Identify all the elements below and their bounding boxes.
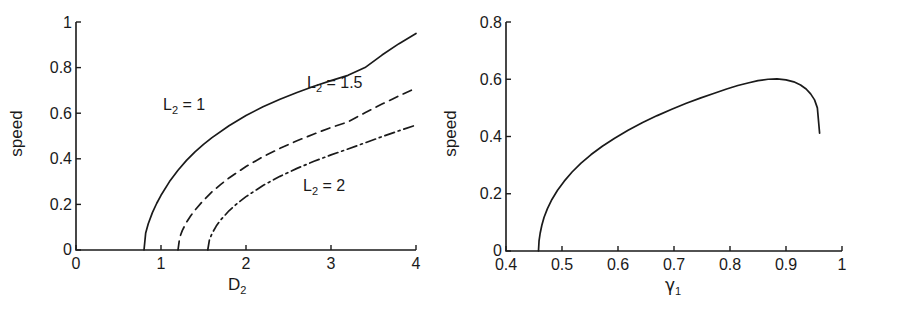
left-x-axis-title: D2 (228, 276, 246, 293)
right-xtick-label: 0.5 (544, 257, 580, 273)
curve-label-rest: = 1.5 (322, 74, 362, 91)
curve-label-rest: = 2 (318, 177, 345, 194)
right-ytick-label: 0.6 (458, 72, 502, 88)
left-ytick-label: 0.4 (28, 151, 72, 167)
left-xtick-label: 2 (232, 256, 260, 272)
right-ytick-label: 0.4 (458, 129, 502, 145)
left-ytick-label: 1 (42, 15, 72, 31)
left-xtick-label: 0 (62, 256, 90, 272)
curve-label-base: L (163, 96, 172, 113)
right-xtick-label: 0.9 (768, 257, 804, 273)
right-xtick-label: 0.8 (712, 257, 748, 273)
left-xtick-label: 1 (147, 256, 175, 272)
left-y-axis-title: speed (8, 104, 25, 164)
right-xtick-label: 1 (824, 257, 860, 273)
right-x-axis-title: γ1 (665, 277, 681, 294)
right-xtick-label: 0.4 (488, 257, 524, 273)
curve-label-sub: 2 (172, 104, 178, 116)
chart-panel-right: 0.8 0.6 0.4 0.2 0 speed 0.4 0.5 0.6 0.7 … (450, 0, 899, 309)
curve-label-rest: = 1 (178, 96, 205, 113)
left-xtick-label: 3 (317, 256, 345, 272)
data-curve-0 (144, 33, 416, 250)
axis-spine (506, 22, 842, 251)
right-xtick-label: 0.7 (656, 257, 692, 273)
right-x-axis-title-sub: 1 (675, 285, 681, 297)
left-ytick-label: 0.2 (28, 197, 72, 213)
axis-spine (76, 22, 416, 250)
left-xtick-label: 4 (402, 256, 430, 272)
curve-label-sub: 2 (312, 185, 318, 197)
curve-label-sub: 2 (316, 82, 322, 94)
right-y-axis-title: speed (442, 104, 459, 164)
figure-container: 1 0.8 0.6 0.4 0.2 0 speed 0 1 2 3 4 D2 L… (0, 0, 899, 309)
left-x-axis-title-base: D (228, 275, 240, 294)
left-ytick-label: 0.8 (28, 60, 72, 76)
left-x-axis-title-sub: 2 (240, 284, 246, 296)
curve-label-base: L (307, 74, 316, 91)
right-x-axis-title-base: γ (665, 275, 675, 295)
right-ytick-label: 0.8 (458, 15, 502, 31)
right-xtick-label: 0.6 (600, 257, 636, 273)
right-ytick-label: 0.2 (458, 186, 502, 202)
chart-panel-left: 1 0.8 0.6 0.4 0.2 0 speed 0 1 2 3 4 D2 L… (0, 0, 450, 309)
curve-label-l2-15: L2 = 1.5 (307, 75, 363, 91)
curve-label-l2-2: L2 = 2 (303, 178, 345, 194)
curve-label-base: L (303, 177, 312, 194)
data-curve-0 (538, 79, 819, 251)
left-ytick-label: 0.6 (28, 106, 72, 122)
curve-label-l2-1: L2 = 1 (163, 97, 205, 113)
